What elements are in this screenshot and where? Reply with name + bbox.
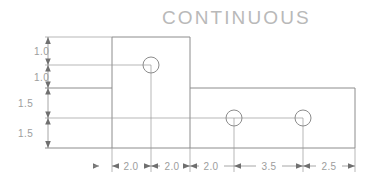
arrow-h-190-left: [183, 163, 190, 168]
horizontal-dimension-label-3: 2.0: [203, 161, 218, 172]
arrow-h-151-right: [151, 163, 158, 168]
arrow-h-303-right: [303, 163, 310, 168]
vertical-dimension-label-2: 1.0: [34, 72, 49, 83]
technical-drawing-svg: CONTINUOUS: [0, 0, 378, 185]
cad-drawing-canvas: CONTINUOUS: [0, 0, 378, 185]
arrow-h-151-left: [144, 163, 151, 168]
arrow-v-88-down: [45, 88, 51, 95]
arrow-h-112-right: [112, 163, 119, 168]
arrow-h-303-left: [296, 163, 303, 168]
horizontal-dimension-chain: 2.0 2.0 2.0 3.5 2.5: [93, 161, 355, 172]
arrow-v-118-up: [45, 112, 51, 119]
arrow-h-355-left: [348, 163, 355, 168]
arrow-h-190-right: [190, 163, 197, 168]
vertical-dimension-label-1: 1.0: [34, 46, 49, 57]
arrow-v-118-down: [45, 118, 51, 125]
hole-group: [143, 57, 311, 126]
arrow-v-top: [45, 37, 51, 44]
part-outline: [45, 37, 355, 148]
horizontal-dimension-label-1: 2.0: [123, 161, 138, 172]
horizontal-dimension-label-5: 2.5: [321, 161, 336, 172]
arrow-v-bottom: [45, 141, 51, 148]
arrow-h-234-right: [234, 163, 241, 168]
extension-lines: [45, 37, 355, 172]
horizontal-dimension-label-2: 2.0: [164, 161, 179, 172]
vertical-dimension-chain: 1.0 1.0 1.5 1.5: [18, 37, 51, 148]
vertical-dimension-label-4: 1.5: [18, 128, 33, 139]
arrow-v-65-up: [45, 59, 51, 66]
arrow-v-65-down: [45, 65, 51, 72]
vertical-dimension-label-3: 1.5: [18, 98, 33, 109]
drawing-title: CONTINUOUS: [162, 7, 311, 28]
horizontal-dimension-label-4: 3.5: [261, 161, 276, 172]
